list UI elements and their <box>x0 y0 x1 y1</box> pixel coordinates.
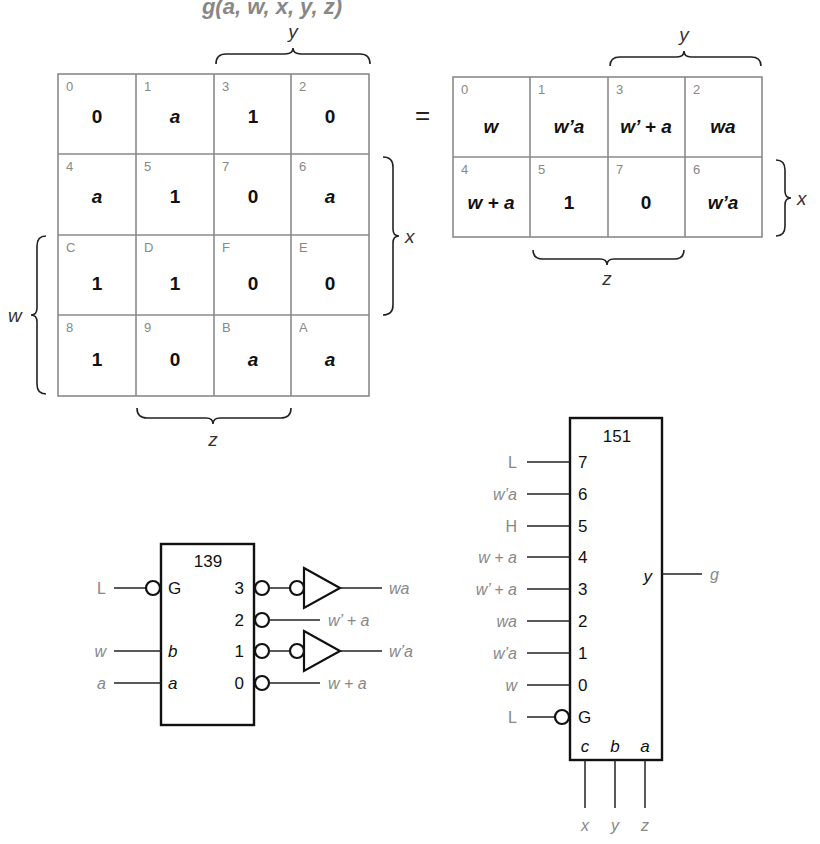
svg-text:5: 5 <box>538 162 545 177</box>
svg-text:5: 5 <box>578 517 587 536</box>
svg-text:1: 1 <box>170 186 181 207</box>
svg-text:3: 3 <box>222 79 229 94</box>
inversion-bubble-icon <box>255 644 269 658</box>
svg-text:4: 4 <box>66 159 73 174</box>
svg-text:0: 0 <box>235 674 244 693</box>
left-x-brace <box>383 157 399 315</box>
mux-select-a: a z <box>640 737 650 834</box>
svg-text:0: 0 <box>325 273 336 294</box>
left-kmap-cell: F 0 <box>222 240 258 294</box>
right-kmap-cell: 5 1 <box>538 162 575 213</box>
svg-text:w: w <box>505 677 518 694</box>
inversion-bubble-icon <box>555 710 569 724</box>
svg-text:H: H <box>505 518 517 535</box>
inversion-bubble-icon <box>290 581 304 595</box>
right-y-brace <box>610 51 761 66</box>
mux-151: 151 L 7 w’a 6 H 5 w + a 4 w’ + a 3 wa <box>476 418 719 834</box>
svg-text:8: 8 <box>66 320 73 335</box>
svg-text:L: L <box>508 454 517 471</box>
svg-text:0: 0 <box>641 192 652 213</box>
svg-text:4: 4 <box>578 548 587 567</box>
svg-text:L: L <box>97 580 106 597</box>
left-z-label: z <box>207 429 218 450</box>
svg-text:5: 5 <box>144 159 151 174</box>
svg-text:1: 1 <box>92 273 103 294</box>
mux-enable-g: L G <box>508 708 591 727</box>
decoder-input-g: L G <box>97 579 181 598</box>
svg-text:w’a: w’a <box>708 192 739 213</box>
svg-text:7: 7 <box>222 159 229 174</box>
function-title: g(a, w, x, y, z) <box>201 0 342 19</box>
svg-text:w: w <box>94 643 107 660</box>
left-kmap-cell: 7 0 <box>222 159 258 207</box>
svg-text:2: 2 <box>235 611 244 630</box>
svg-text:wa: wa <box>389 580 410 597</box>
svg-text:a: a <box>168 674 177 693</box>
svg-text:6: 6 <box>693 162 700 177</box>
svg-text:C: C <box>66 240 75 255</box>
svg-text:3: 3 <box>578 580 587 599</box>
svg-text:0: 0 <box>461 82 468 97</box>
svg-text:0: 0 <box>170 349 181 370</box>
svg-text:b: b <box>610 737 619 756</box>
left-w-label: w <box>8 305 23 326</box>
svg-text:w’ + a: w’ + a <box>620 116 672 137</box>
inversion-bubble-icon <box>255 613 269 627</box>
svg-text:D: D <box>144 240 153 255</box>
svg-text:b: b <box>168 642 177 661</box>
right-z-brace <box>533 250 684 265</box>
svg-text:1: 1 <box>538 82 545 97</box>
right-z-label: z <box>601 268 612 289</box>
mux-select-b: b y <box>610 737 620 834</box>
svg-text:g: g <box>710 566 719 583</box>
right-kmap-cell: 7 0 <box>616 162 651 213</box>
left-y-label: y <box>286 21 299 42</box>
buffer-triangle-icon <box>304 631 340 671</box>
svg-text:3: 3 <box>235 579 244 598</box>
inversion-bubble-icon <box>255 676 269 690</box>
svg-text:2: 2 <box>299 79 306 94</box>
left-kmap-cell: 9 0 <box>144 320 180 370</box>
svg-text:1: 1 <box>144 79 151 94</box>
left-kmap-cell: 1 a <box>144 79 181 127</box>
svg-text:w’ + a: w’ + a <box>328 612 369 629</box>
svg-text:6: 6 <box>299 159 306 174</box>
svg-text:a: a <box>92 186 103 207</box>
svg-text:w + a: w + a <box>468 192 515 213</box>
decoder-139-body <box>161 544 254 725</box>
left-kmap-cell: 5 1 <box>144 159 181 207</box>
svg-text:7: 7 <box>616 162 623 177</box>
svg-text:0: 0 <box>325 106 336 127</box>
svg-text:0: 0 <box>248 273 259 294</box>
svg-text:a: a <box>170 106 181 127</box>
svg-text:A: A <box>299 320 308 335</box>
left-kmap-cell: E 0 <box>299 240 335 294</box>
svg-text:wa: wa <box>710 116 736 137</box>
left-kmap-cell: 3 1 <box>222 79 259 127</box>
svg-text:wa: wa <box>497 613 518 630</box>
svg-text:y: y <box>643 567 654 586</box>
left-kmap-cell: 2 0 <box>299 79 335 127</box>
svg-text:a: a <box>640 737 649 756</box>
right-kmap-cell: 1 w’a <box>538 82 585 137</box>
mux-151-label: 151 <box>603 427 631 446</box>
svg-text:w + a: w + a <box>328 675 367 692</box>
svg-text:2: 2 <box>693 82 700 97</box>
svg-text:w’a: w’a <box>493 645 517 662</box>
svg-text:3: 3 <box>616 82 623 97</box>
svg-text:1: 1 <box>564 192 575 213</box>
svg-text:1: 1 <box>578 644 587 663</box>
left-z-brace <box>137 408 291 424</box>
svg-text:z: z <box>640 817 649 834</box>
inversion-bubble-icon <box>290 644 304 658</box>
right-x-brace <box>776 160 791 236</box>
right-x-label: x <box>796 188 808 209</box>
svg-text:1: 1 <box>92 349 103 370</box>
svg-text:E: E <box>299 240 308 255</box>
svg-text:w + a: w + a <box>478 549 517 566</box>
left-y-brace <box>216 48 370 64</box>
svg-text:G: G <box>168 579 181 598</box>
decoder-output-1: 1 w’a <box>235 631 414 671</box>
right-kmap-cell: 4 w + a <box>461 162 515 213</box>
left-kmap-cell: 0 0 <box>66 79 102 127</box>
